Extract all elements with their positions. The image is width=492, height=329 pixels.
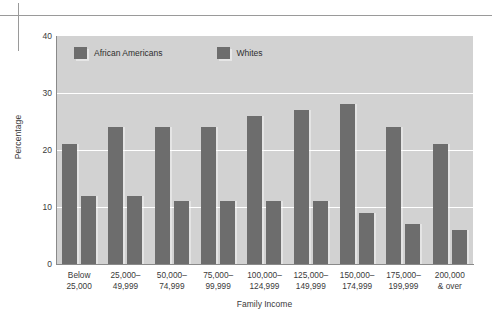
- bar: [201, 127, 216, 264]
- bar: [81, 196, 96, 264]
- bar: [359, 213, 374, 264]
- bar-group: [427, 36, 473, 264]
- bar-group: [102, 36, 148, 264]
- legend-swatch-icon: [74, 47, 87, 59]
- y-tick-label: 30: [4, 89, 52, 98]
- bar: [340, 104, 355, 264]
- bar: [405, 224, 420, 264]
- bar: [220, 201, 235, 264]
- y-tick-label: 40: [4, 32, 52, 41]
- bar-group: [334, 36, 380, 264]
- legend-swatch-icon: [217, 47, 230, 59]
- chart-legend: African Americans Whites: [74, 47, 262, 59]
- x-tick-label: 100,000– 124,999: [241, 270, 287, 300]
- bar: [313, 201, 328, 264]
- bar-group: [56, 36, 102, 264]
- bar: [174, 201, 189, 264]
- bar: [127, 196, 142, 264]
- bar: [155, 127, 170, 264]
- x-axis-title: Family Income: [56, 299, 473, 309]
- y-axis-title: Percentage: [13, 97, 23, 177]
- y-tick-label: 10: [4, 203, 52, 212]
- bar-group: [288, 36, 334, 264]
- x-tick-label: 125,000– 149,999: [288, 270, 334, 300]
- y-tick-label: 0: [4, 260, 52, 269]
- bar-group: [195, 36, 241, 264]
- x-axis-line: [56, 264, 474, 265]
- bar-chart-figure: 40 30 20 10 0 Percentage African America…: [0, 0, 492, 329]
- plot-area: African Americans Whites: [56, 36, 473, 264]
- x-tick-label: 175,000– 199,999: [380, 270, 426, 300]
- bar: [452, 230, 467, 264]
- y-axis-ticks: 40 30 20 10 0: [0, 0, 52, 329]
- bar: [294, 110, 309, 264]
- x-tick-label: 200,000 & over: [427, 270, 473, 300]
- bar-group: [149, 36, 195, 264]
- legend-item-african-americans: African Americans: [74, 47, 163, 59]
- bar: [386, 127, 401, 264]
- x-tick-label: Below 25,000: [56, 270, 102, 300]
- legend-item-whites: Whites: [217, 47, 263, 59]
- y-tick-label: 20: [4, 146, 52, 155]
- bar-group: [380, 36, 426, 264]
- legend-label: Whites: [237, 48, 263, 58]
- x-tick-label: 50,000– 74,999: [149, 270, 195, 300]
- x-tick-label: 25,000– 49,999: [102, 270, 148, 300]
- y-axis-line: [56, 36, 57, 265]
- legend-label: African Americans: [94, 48, 163, 58]
- x-tick-label: 150,000– 174,999: [334, 270, 380, 300]
- bar-group: [241, 36, 287, 264]
- bar: [433, 144, 448, 264]
- bar: [247, 116, 262, 264]
- x-tick-label: 75,000– 99,999: [195, 270, 241, 300]
- x-axis-ticks: Below 25,00025,000– 49,99950,000– 74,999…: [56, 270, 473, 300]
- bar: [266, 201, 281, 264]
- bar: [62, 144, 77, 264]
- bar: [108, 127, 123, 264]
- bars-layer: [56, 36, 473, 264]
